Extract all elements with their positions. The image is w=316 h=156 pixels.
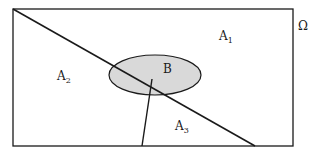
universe-label: Ω: [298, 19, 308, 33]
event-b-label: B: [163, 62, 172, 76]
partition-diagram: Ω A1 A2 A3 B: [0, 0, 316, 156]
